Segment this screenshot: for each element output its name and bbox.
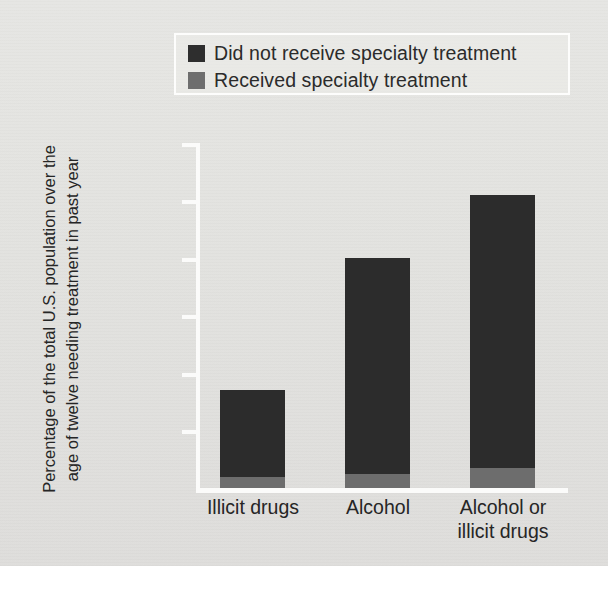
light-swatch-icon <box>188 72 205 89</box>
y-axis-title: Percentage of the total U.S. population … <box>38 104 84 534</box>
y-axis-title-line1: Percentage of the total U.S. population … <box>38 145 61 493</box>
plot-area: 12.0 10.0 8.0 6.0 4.0 2.0 0 Illicit drug… <box>200 143 568 488</box>
y-tick-2 <box>182 430 197 434</box>
bar-illicit-drugs <box>220 390 285 488</box>
legend-label-did-not-receive: Did not receive specialty treatment <box>214 42 517 65</box>
bar-segment-treated <box>220 477 285 489</box>
x-label-line2: illicit drugs <box>428 519 578 543</box>
bar-segment-treated <box>470 468 535 488</box>
legend-item-did-not-receive: Did not receive specialty treatment <box>188 40 568 67</box>
bar-segment-untreated <box>470 195 535 468</box>
bar-segment-untreated <box>220 390 285 476</box>
x-label-alcohol-or-illicit-drugs: Alcohol or illicit drugs <box>428 495 578 543</box>
y-tick-6 <box>182 315 197 319</box>
figure-container: Did not receive specialty treatment Rece… <box>0 0 615 602</box>
legend-item-received: Received specialty treatment <box>188 67 568 94</box>
y-tick-10 <box>182 200 197 204</box>
x-axis-line <box>196 488 568 493</box>
dark-swatch-icon <box>188 45 205 62</box>
y-tick-4 <box>182 373 197 377</box>
y-tick-12 <box>182 143 197 147</box>
chart-legend: Did not receive specialty treatment Rece… <box>174 33 570 95</box>
bar-segment-untreated <box>345 258 410 474</box>
y-axis-title-line2: age of twelve needing treatment in past … <box>61 157 84 482</box>
x-label-line1: Alcohol or <box>428 495 578 519</box>
bar-alcohol <box>345 258 410 488</box>
bar-segment-treated <box>345 474 410 488</box>
legend-label-received: Received specialty treatment <box>214 69 467 92</box>
y-tick-8 <box>182 258 197 262</box>
bar-alcohol-or-illicit-drugs <box>470 195 535 488</box>
